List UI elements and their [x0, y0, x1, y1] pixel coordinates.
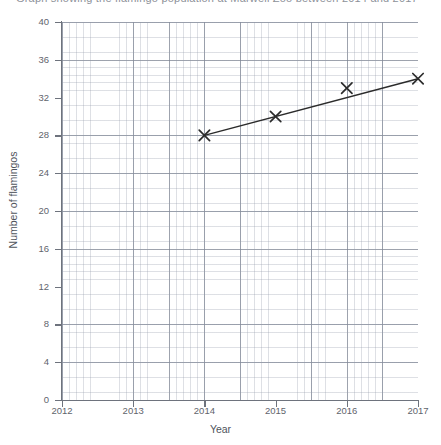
y-axis-title: Number of flamingos: [7, 152, 19, 249]
y-tick-mark: [55, 362, 62, 363]
y-tick-mark: [55, 249, 62, 250]
x-tick-label-2015: 2015: [253, 405, 299, 416]
x-tick-label-2016: 2016: [324, 405, 370, 416]
y-tick-mark: [55, 22, 62, 23]
y-tick-label-36: 36: [9, 55, 49, 65]
y-tick-label-28: 28: [9, 130, 49, 140]
x-axis-spine: [61, 400, 419, 401]
y-tick-label-12: 12: [9, 282, 49, 292]
y-tick-label-8: 8: [9, 319, 49, 329]
y-tick-mark: [55, 98, 62, 99]
y-tick-mark: [55, 400, 62, 401]
plot-area-gridpaper: [62, 22, 418, 400]
x-tick-label-2017: 2017: [395, 405, 441, 416]
y-tick-label-40: 40: [9, 17, 49, 27]
x-tick-label-2013: 2013: [110, 405, 156, 416]
y-tick-mark: [55, 135, 62, 136]
y-tick-mark: [55, 211, 62, 212]
y-tick-mark: [55, 324, 62, 325]
y-tick-label-4: 4: [9, 357, 49, 367]
y-tick-mark: [55, 287, 62, 288]
y-tick-mark: [55, 173, 62, 174]
x-tick-label-2014: 2014: [181, 405, 227, 416]
y-tick-label-32: 32: [9, 93, 49, 103]
chart-figure: 0 4 8 12 16 20 24 28 32 36 40 2012 2013 …: [0, 0, 441, 445]
x-axis-title: Year: [0, 423, 441, 435]
y-tick-label-0: 0: [9, 395, 49, 405]
y-tick-mark: [55, 60, 62, 61]
x-tick-label-2012: 2012: [39, 405, 85, 416]
